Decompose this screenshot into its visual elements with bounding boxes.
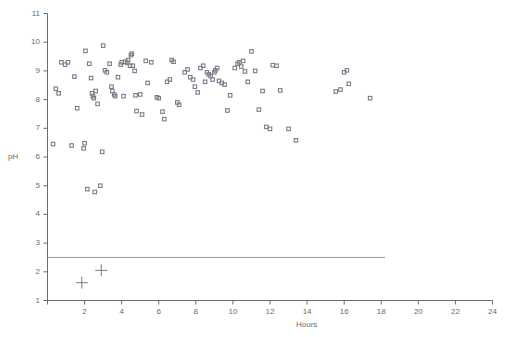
data-point-marker [96,102,100,106]
data-point-marker [345,69,349,73]
x-tick-label: 6 [149,308,169,316]
scatter-chart: 1234567891011 24681012141618202224 pH Ho… [0,0,512,337]
y-tick-label: 7 [20,124,40,132]
data-point-marker [240,65,244,69]
y-tick-label: 6 [20,153,40,161]
data-point-marker [261,89,265,93]
data-points-layer [51,44,372,289]
data-point-marker [99,184,103,188]
data-point-marker [146,81,150,85]
x-tick-label: 18 [371,308,391,316]
data-point-marker [116,75,120,79]
data-point-marker [163,117,167,121]
data-point-marker [66,61,70,65]
data-point-marker [108,62,112,65]
data-point-marker [275,64,279,67]
x-tick-label: 16 [334,308,354,316]
data-point-marker [82,147,86,151]
x-tick-marks [48,301,493,305]
data-point-marker [211,78,215,82]
data-point-marker [268,127,272,130]
y-tick-label: 4 [20,210,40,218]
data-point-marker [89,76,93,80]
data-point-marker [334,90,338,94]
data-point-marker [368,96,372,100]
x-tick-label: 10 [223,308,243,316]
data-point-marker [93,190,97,194]
data-point-marker [186,68,190,72]
data-point-marker [100,150,104,154]
data-point-marker [75,106,79,110]
y-tick-label: 9 [20,67,40,75]
x-tick-label: 8 [186,308,206,316]
data-point-marker [101,44,105,48]
data-point-marker [241,59,245,63]
data-point-marker [203,80,207,84]
x-tick-label: 12 [260,308,280,316]
data-point-marker [126,58,130,62]
data-point-marker [138,93,142,97]
data-point-marker [133,69,137,73]
y-tick-label: 5 [20,182,40,190]
y-tick-label: 8 [20,96,40,104]
data-point-marker [278,89,282,93]
data-point-marker [287,127,291,130]
series-ph-measurements [51,44,372,194]
data-point-marker [131,64,135,67]
y-tick-label: 10 [20,38,40,46]
data-point-marker [223,83,227,87]
data-point-marker [134,94,138,98]
data-point-marker [84,49,88,53]
x-tick-label: 20 [408,308,428,316]
data-point-marker [86,187,90,191]
y-tick-label: 2 [20,268,40,276]
data-point-marker [168,78,172,82]
data-point-marker [265,125,269,128]
y-axis-title: pH [8,153,18,161]
data-point-marker [246,80,250,84]
data-point-marker [60,61,64,65]
data-point-marker [257,108,261,112]
data-point-marker [94,89,98,93]
data-point-marker [228,94,232,98]
y-tick-label: 11 [20,10,40,18]
y-tick-label: 3 [20,239,40,247]
data-point-marker [87,62,91,65]
data-point-marker [202,64,206,67]
data-point-marker [161,110,165,114]
data-point-marker [51,142,55,146]
data-point-marker [54,87,58,91]
data-point-marker [150,61,154,65]
data-point-marker [83,141,87,145]
data-point-marker [193,85,197,89]
data-point-marker [294,139,298,143]
y-tick-marks [44,14,48,301]
data-point-marker [215,66,219,70]
data-point-marker [196,91,200,95]
data-point-marker [253,69,256,73]
data-point-marker [226,109,230,113]
data-point-marker [122,94,126,98]
x-tick-label: 22 [445,308,465,316]
data-point-marker [250,50,254,54]
data-point-marker [73,75,77,79]
x-tick-label: 14 [297,308,317,316]
data-point-marker [57,92,61,96]
x-axis-title: Hours [296,321,317,329]
x-tick-label: 24 [483,308,503,316]
data-point-marker [110,85,114,89]
plus-marker [95,264,107,276]
plus-marker [76,277,88,289]
data-point-marker [135,109,139,113]
data-point-marker [243,70,247,74]
y-tick-label: 1 [20,297,40,305]
data-point-marker [144,59,148,63]
data-point-marker [140,113,144,117]
data-point-marker [70,144,74,148]
series-control-markers [76,264,107,288]
plot-area [0,0,512,337]
x-tick-label: 4 [112,308,132,316]
data-point-marker [271,63,275,67]
data-point-marker [339,88,343,92]
data-point-marker [191,78,195,82]
